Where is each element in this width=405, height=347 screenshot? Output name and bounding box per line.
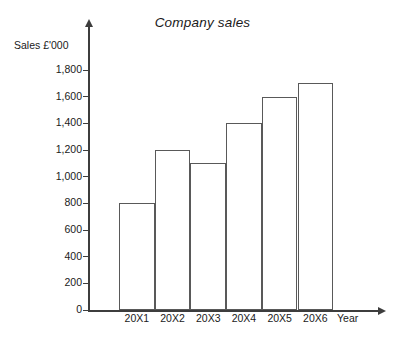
x-axis-tick-labels: 20X120X220X320X420X520X6	[0, 0, 405, 347]
x-axis-tick-label-20X2: 20X2	[153, 312, 193, 324]
x-axis-tick-label-20X4: 20X4	[224, 312, 264, 324]
x-axis-tick-label-20X6: 20X6	[295, 312, 335, 324]
x-axis-tick-label-20X3: 20X3	[188, 312, 228, 324]
x-axis-tick-label-20X1: 20X1	[117, 312, 157, 324]
x-axis-tick-label-20X5: 20X5	[260, 312, 300, 324]
chart-page: Company sales Sales £'000 Year 1,8001,60…	[0, 0, 405, 347]
